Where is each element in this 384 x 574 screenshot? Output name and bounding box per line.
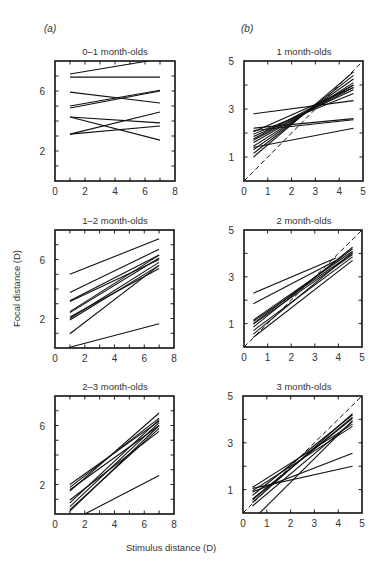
x-tick-label: 2 (82, 519, 88, 530)
y-tick-label: 5 (227, 391, 233, 402)
plot-a2: 0246826 (39, 230, 177, 364)
x-tick-label: 3 (312, 352, 318, 363)
plot-canvas: 0246826024682602468260123451350123451350… (0, 0, 384, 574)
x-tick-label: 1 (265, 352, 271, 363)
x-tick-label: 8 (171, 519, 177, 530)
x-tick-label: 6 (141, 353, 147, 364)
x-tick-label: 4 (336, 352, 342, 363)
plot-b1: 012345135 (228, 56, 366, 197)
data-line (70, 324, 159, 348)
data-line (253, 252, 352, 334)
x-tick-label: 4 (112, 353, 118, 364)
x-tick-label: 5 (359, 352, 365, 363)
x-tick-label: 5 (359, 518, 365, 529)
x-tick-label: 4 (336, 186, 342, 197)
y-axis-title: Focal distance (D) (11, 250, 22, 327)
y-tick-label: 6 (39, 86, 45, 97)
x-tick-label: 0 (52, 186, 58, 197)
data-line (70, 413, 159, 491)
y-tick-label: 2 (39, 146, 45, 157)
y-tick-label: 2 (39, 480, 45, 491)
y-tick-label: 5 (228, 56, 234, 67)
x-tick-label: 2 (82, 186, 88, 197)
x-tick-label: 0 (52, 353, 58, 364)
x-tick-label: 1 (264, 518, 270, 529)
series-group (253, 247, 352, 337)
x-tick-label: 0 (52, 519, 58, 530)
x-tick-label: 6 (142, 186, 148, 197)
plot-frame (55, 396, 174, 514)
data-line (70, 90, 160, 106)
data-line (70, 423, 159, 507)
y-tick-label: 1 (227, 485, 233, 496)
x-tick-label: 2 (288, 352, 294, 363)
x-tick-label: 2 (288, 518, 294, 529)
data-line (70, 258, 159, 313)
y-tick-label: 2 (39, 314, 45, 325)
x-tick-label: 5 (360, 186, 366, 197)
data-line (254, 119, 354, 129)
x-tick-label: 4 (112, 186, 118, 197)
x-tick-label: 2 (289, 186, 295, 197)
x-tick-label: 3 (312, 518, 318, 529)
x-tick-label: 0 (240, 518, 246, 529)
series-group (70, 413, 159, 514)
x-tick-label: 4 (335, 518, 341, 529)
y-tick-label: 3 (227, 438, 233, 449)
x-tick-label: 2 (82, 353, 88, 364)
data-line (253, 422, 353, 506)
y-tick-label: 3 (228, 104, 234, 115)
x-tick-label: 8 (171, 353, 177, 364)
data-line (70, 61, 148, 74)
data-line (70, 265, 159, 333)
y-tick-label: 5 (228, 225, 234, 236)
data-line (70, 112, 160, 134)
data-line (260, 421, 353, 513)
y-tick-label: 1 (228, 319, 234, 330)
x-tick-label: 0 (241, 352, 247, 363)
plot-frame (55, 61, 175, 181)
figure: (a) (b) 0–1 month-olds 1–2 month-olds 2–… (0, 0, 384, 574)
series-group (254, 72, 354, 157)
x-tick-label: 3 (313, 186, 319, 197)
data-line (70, 420, 159, 503)
series-group (70, 239, 159, 347)
y-tick-label: 6 (39, 255, 45, 266)
x-tick-label: 6 (141, 519, 147, 530)
series-group (253, 414, 353, 513)
y-tick-label: 6 (39, 421, 45, 432)
y-tick-label: 1 (228, 152, 234, 163)
plot-b3: 012345135 (227, 391, 365, 529)
data-line (70, 255, 159, 312)
y-tick-label: 3 (228, 272, 234, 283)
series-group (70, 61, 160, 140)
data-line (70, 255, 159, 301)
plot-b2: 012345135 (228, 225, 365, 363)
reference-line (244, 230, 362, 347)
plot-a1: 0246826 (39, 61, 178, 197)
x-axis-title: Stimulus distance (D) (126, 542, 216, 553)
data-line (70, 239, 159, 274)
data-line (70, 126, 160, 134)
x-tick-label: 1 (265, 186, 271, 197)
data-line (253, 260, 336, 303)
x-tick-label: 0 (241, 186, 247, 197)
data-line (253, 249, 352, 324)
plot-a3: 0246826 (39, 396, 177, 530)
x-tick-label: 4 (112, 519, 118, 530)
x-tick-label: 8 (172, 186, 178, 197)
plot-frame (55, 230, 174, 348)
